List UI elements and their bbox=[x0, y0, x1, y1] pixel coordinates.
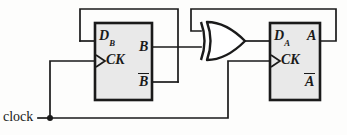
flipflop-a-q-label: A bbox=[307, 29, 316, 43]
flipflop-b-q-label: B bbox=[139, 40, 148, 54]
clock-signal-label: clock bbox=[3, 110, 33, 124]
xor-gate-body bbox=[207, 22, 245, 60]
flipflop-a-qbar-label: A bbox=[305, 74, 314, 89]
circuit-diagram: DB CK B B DA CK A A clock bbox=[0, 0, 347, 135]
flipflop-b-d-label: DB bbox=[99, 29, 115, 45]
xor-gate-input-arc bbox=[201, 22, 205, 60]
circuit-wiring-layer bbox=[0, 0, 347, 135]
wire-clock-to-ck-b bbox=[50, 61, 95, 118]
wire-clock-to-ck-a bbox=[50, 61, 270, 118]
flipflop-b-qbar-label: B bbox=[139, 74, 148, 89]
flipflop-a-ck-label: CK bbox=[281, 53, 300, 67]
clock-junction-dot bbox=[47, 115, 53, 121]
flipflop-b-ck-label: CK bbox=[106, 53, 125, 67]
flipflop-a-d-label: DA bbox=[274, 29, 290, 45]
